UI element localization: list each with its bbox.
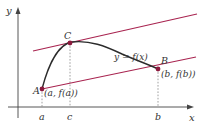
tick-b: b [155,111,161,122]
y-axis-arrow-icon [16,7,21,14]
y-axis-label: y [5,5,12,16]
point-C [68,41,73,46]
point-A-coord: (a, f(a)) [44,88,78,98]
x-axis-label: x [189,112,195,123]
tangent-line [33,14,197,51]
mvt-diagram: y x A (a, f(a)) C B (b, f(b)) y = f(x) a… [0,0,201,123]
point-C-label: C [64,30,72,41]
tick-a: a [39,111,45,122]
curve-label: y = f(x) [113,52,148,62]
point-B-coord: (b, f(b)) [161,69,196,79]
point-B-label: B [160,55,168,66]
x-axis-arrow-icon [187,105,194,110]
point-A-label: A [32,85,40,96]
curve-f [42,42,158,89]
point-B [156,67,161,72]
tick-c: c [67,111,73,122]
